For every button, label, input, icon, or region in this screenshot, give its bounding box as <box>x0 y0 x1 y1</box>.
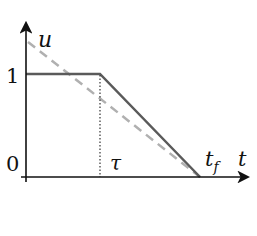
x-axis-label: t <box>238 147 247 171</box>
y-axis-label: u <box>38 27 52 52</box>
tau-label: τ <box>110 151 122 175</box>
y-tick-1: 1 <box>6 64 19 88</box>
tf-subscript: f <box>212 159 221 175</box>
y-tick-0: 0 <box>6 152 19 176</box>
tf-label: tf <box>205 147 221 175</box>
diagram-canvas: u 1 0 τ tf t <box>0 0 257 236</box>
